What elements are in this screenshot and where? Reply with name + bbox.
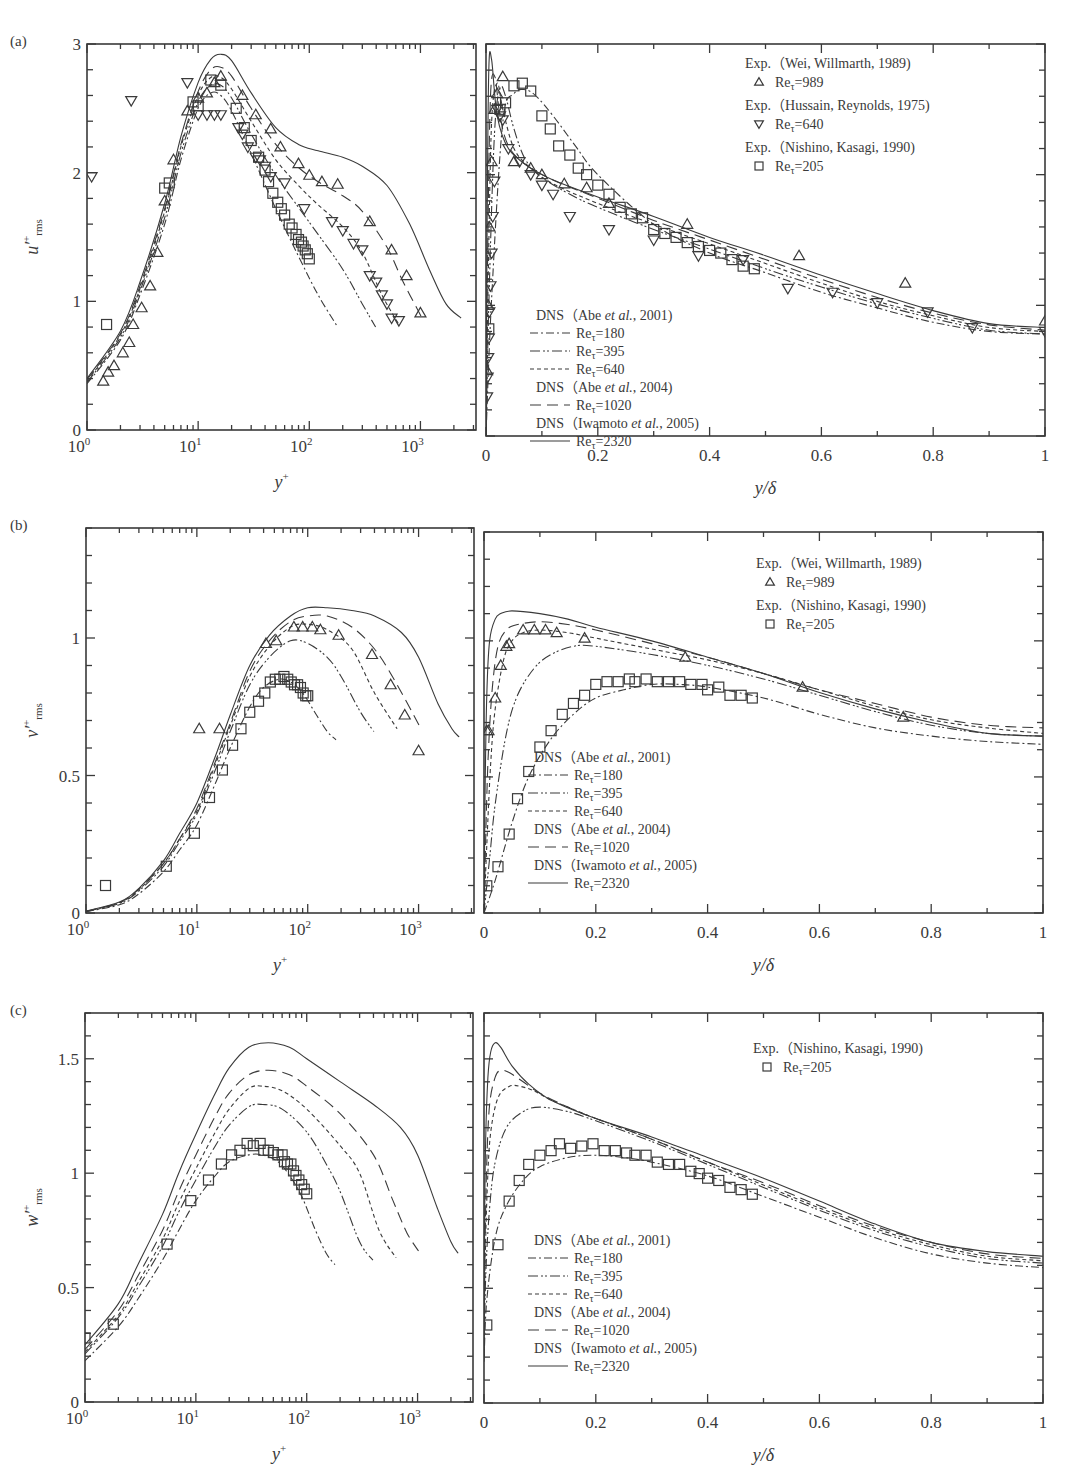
data-point-triangle-up bbox=[579, 633, 590, 643]
data-point-triangle-up bbox=[332, 179, 343, 189]
x-tick-label: 102 bbox=[290, 435, 313, 456]
legend-dns-label: Reτ=2320 bbox=[574, 1359, 630, 1376]
dns-curve-dashdotdot bbox=[86, 640, 374, 912]
data-point-triangle-up bbox=[117, 347, 128, 357]
data-point-square bbox=[736, 690, 746, 700]
plot-frame bbox=[86, 528, 474, 913]
legend-dns-label: Reτ=1020 bbox=[574, 1323, 630, 1340]
data-point-triangle-up bbox=[98, 376, 109, 386]
data-point-square bbox=[591, 679, 601, 689]
legend-dns-label: Reτ=180 bbox=[574, 1251, 623, 1268]
legend-exp-label: Reτ=640 bbox=[775, 117, 824, 134]
legend-dns-label: Reτ=395 bbox=[576, 344, 625, 361]
dns-curve-dashdotdot bbox=[87, 83, 376, 382]
dns-curve-dashed bbox=[87, 76, 399, 381]
legend-exp-label: Reτ=205 bbox=[783, 1060, 832, 1077]
y-tick-label: 2 bbox=[73, 164, 82, 183]
dns-curve-solid bbox=[484, 1043, 1043, 1346]
legend-dns-label: Reτ=640 bbox=[576, 362, 625, 379]
panel-label: (c) bbox=[10, 1002, 27, 1019]
x-tick-label: 103 bbox=[399, 918, 422, 939]
data-point-triangle-up bbox=[250, 109, 261, 119]
data-point-square bbox=[566, 1143, 576, 1153]
legend-exp-label: Reτ=989 bbox=[775, 75, 824, 92]
x-tick-label: 0.8 bbox=[923, 446, 944, 465]
legend-marker-triangle-up bbox=[766, 578, 775, 586]
data-point-triangle-up bbox=[194, 723, 205, 733]
legend-dns-label: Reτ=180 bbox=[576, 326, 625, 343]
data-point-triangle-up bbox=[109, 360, 120, 370]
data-point-square bbox=[287, 223, 297, 233]
legend-marker-triangle-up bbox=[755, 78, 764, 86]
legend-dns-title: DNS（Abe et al., 2004) bbox=[536, 380, 673, 396]
data-point-square bbox=[189, 828, 199, 838]
data-point-triangle-down bbox=[648, 236, 659, 246]
legend-exp-title: Exp.（Hussain, Reynolds, 1975) bbox=[745, 98, 930, 114]
dns-curves bbox=[87, 54, 461, 383]
data-point-square bbox=[186, 1196, 196, 1206]
data-point-triangle-up bbox=[413, 745, 424, 755]
x-tick-label: 0 bbox=[480, 1413, 489, 1432]
panel-a-left: 1001011021030123y+u′+rms(a) bbox=[10, 33, 476, 492]
y-axis-label: u′+rms bbox=[20, 219, 44, 255]
data-point-triangle-down bbox=[564, 212, 575, 222]
legend-exp-label: Reτ=989 bbox=[786, 575, 835, 592]
y-tick-label: 3 bbox=[73, 35, 82, 54]
panel-b-left: 10010110210300.51y+v′+rms(b) bbox=[10, 517, 474, 975]
panel-label: (a) bbox=[10, 33, 27, 50]
legend-dns-title: DNS（Iwamoto et al., 2005) bbox=[536, 416, 699, 432]
data-point-square bbox=[203, 1175, 213, 1185]
data-point-square bbox=[663, 1159, 673, 1169]
y-tick-label: 0.5 bbox=[58, 1279, 79, 1298]
data-point-triangle-up bbox=[293, 158, 304, 168]
legend-dns-label: Reτ=2320 bbox=[574, 876, 630, 893]
x-tick-label: 0.8 bbox=[921, 923, 942, 942]
data-point-square bbox=[565, 150, 575, 160]
y-tick-label: 0 bbox=[71, 1393, 80, 1412]
data-point-triangle-down bbox=[126, 97, 137, 107]
data-point-square bbox=[580, 690, 590, 700]
dns-curve-longdash bbox=[87, 66, 421, 379]
panel-label: (b) bbox=[10, 517, 28, 534]
data-point-square bbox=[493, 862, 503, 872]
legend: Exp.（Nishino, Kasagi, 1990)Reτ=205DNS（Ab… bbox=[528, 1041, 923, 1376]
experimental-markers bbox=[101, 622, 425, 891]
data-point-square bbox=[652, 677, 662, 687]
y-axis-label: v′+rms bbox=[20, 703, 44, 738]
data-point-triangle-up bbox=[124, 337, 135, 347]
data-point-triangle-down bbox=[279, 179, 290, 189]
dns-curve-dashdot bbox=[87, 92, 338, 384]
data-point-triangle-up bbox=[136, 302, 147, 312]
data-point-triangle-down bbox=[483, 354, 494, 364]
legend-exp-title: Exp.（Wei, Willmarth, 1989) bbox=[745, 56, 911, 72]
experimental-markers bbox=[482, 71, 1051, 402]
data-point-triangle-up bbox=[529, 624, 540, 634]
data-point-square bbox=[588, 1139, 598, 1149]
y-tick-label: 1.5 bbox=[58, 1050, 79, 1069]
data-point-square bbox=[610, 1146, 620, 1156]
y-tick-label: 1 bbox=[73, 292, 82, 311]
data-point-triangle-down bbox=[548, 190, 559, 200]
data-point-square bbox=[279, 1157, 289, 1167]
legend-exp-title: Exp.（Wei, Willmarth, 1989) bbox=[756, 556, 922, 572]
legend-marker-triangle-down bbox=[755, 121, 764, 129]
x-axis-label: y+ bbox=[272, 470, 288, 492]
data-point-triangle-down bbox=[536, 181, 547, 191]
legend-marker-square bbox=[763, 1063, 771, 1071]
data-point-square bbox=[228, 740, 238, 750]
data-point-triangle-down bbox=[357, 246, 368, 256]
x-tick-label: 0.4 bbox=[697, 1413, 719, 1432]
data-point-triangle-up bbox=[900, 278, 911, 288]
dns-curve-dashed bbox=[85, 1086, 396, 1352]
panel-c-right: 00.20.40.60.81y/δExp.（Nishino, Kasagi, 1… bbox=[480, 1013, 1048, 1465]
data-point-square bbox=[568, 698, 578, 708]
data-point-square bbox=[216, 1159, 226, 1169]
x-tick-label: 0 bbox=[482, 446, 491, 465]
legend-dns-label: Reτ=1020 bbox=[574, 840, 630, 857]
x-tick-label: 103 bbox=[398, 1407, 421, 1428]
legend-dns-title: DNS（Abe et al., 2004) bbox=[534, 1305, 671, 1321]
data-point-triangle-up bbox=[682, 219, 693, 229]
legend-dns-label: Reτ=640 bbox=[574, 804, 623, 821]
legend: Exp.（Wei, Willmarth, 1989)Reτ=989Exp.（Ni… bbox=[528, 556, 926, 893]
data-point-square bbox=[248, 1141, 258, 1151]
